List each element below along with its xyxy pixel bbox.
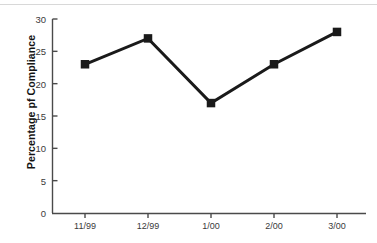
data-point-markers [81, 28, 342, 108]
y-axis-ticks [53, 19, 58, 213]
line-chart: Percentage pf Compliance 051015202530 11… [0, 0, 377, 243]
axis-lines [52, 19, 366, 214]
data-point-marker [207, 99, 216, 108]
data-point-marker [270, 60, 279, 68]
data-point-marker [144, 34, 153, 43]
plot-canvas [0, 0, 377, 243]
data-point-marker [81, 60, 90, 68]
data-series-line [85, 32, 337, 103]
data-point-marker [333, 28, 342, 37]
